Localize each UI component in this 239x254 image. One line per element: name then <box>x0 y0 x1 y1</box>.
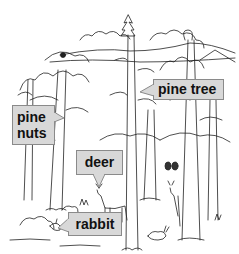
label-text: rabbit <box>76 216 115 232</box>
distant-foliage <box>160 57 204 70</box>
middle-tree <box>140 110 160 200</box>
distant-foliage <box>20 71 89 90</box>
label-rabbit: rabbit <box>68 212 122 236</box>
ground-grass <box>80 199 88 205</box>
hill-outline <box>60 43 235 55</box>
label-pine-tree: pine tree <box>153 79 224 100</box>
pointer-pine-nuts <box>54 110 64 124</box>
label-text: deer <box>85 154 115 170</box>
label-deer: deer <box>76 150 123 175</box>
label-text-line-2: nuts <box>17 125 50 141</box>
bush <box>20 216 54 229</box>
label-pine-nuts: pine nuts <box>12 105 55 145</box>
pointer-pine-tree <box>140 82 154 98</box>
label-text: pine tree <box>158 81 216 97</box>
pointer-rabbit <box>58 214 69 234</box>
hill-outline <box>50 58 235 62</box>
ground-line <box>10 239 100 246</box>
cloud-outline <box>150 30 204 48</box>
far-right-tree <box>200 100 222 220</box>
label-text-line-1: pine <box>17 109 50 125</box>
pointer-deer <box>92 174 106 188</box>
rabbit-figure <box>148 226 169 240</box>
deer-figure-2 <box>168 181 180 226</box>
